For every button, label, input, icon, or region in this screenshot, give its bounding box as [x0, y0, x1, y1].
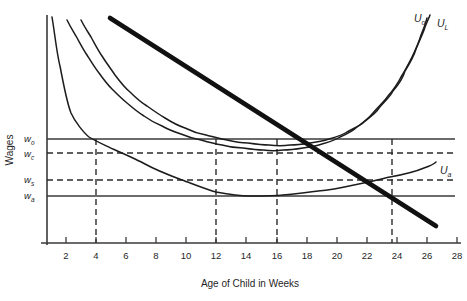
curve-label-u-o-sub: o [422, 19, 426, 26]
wage-label-w-o-sub: o [31, 139, 35, 146]
x-tick-label-12: 26 [422, 250, 433, 261]
wage-label-w-o: wo [24, 133, 35, 146]
x-tick-label-6: 14 [241, 250, 252, 261]
x-tick-label-13: 28 [452, 250, 463, 261]
wage-label-w-c: wc [24, 148, 35, 161]
y-axis-wage-labels: wo wc ws wa [24, 133, 35, 203]
x-tick-label-1: 4 [93, 250, 98, 261]
y-axis-title: Wages [4, 135, 15, 166]
x-axis-title: Age of Child in Weeks [201, 278, 299, 289]
curve-label-u-l: UL [437, 17, 449, 31]
budget-constraint-line [110, 18, 436, 226]
axes-group [41, 15, 461, 245]
x-tick-label-0: 2 [63, 250, 68, 261]
curve-label-u-l-sub: L [445, 24, 449, 31]
drop-lines [96, 139, 392, 243]
wage-label-w-a: wa [24, 190, 35, 203]
curve-label-u-a: Ua [440, 164, 452, 178]
wage-level-lines [47, 139, 455, 196]
x-tick-label-5: 12 [211, 250, 222, 261]
x-tick-label-7: 16 [272, 250, 283, 261]
wage-label-w-c-sub: c [31, 154, 35, 161]
x-axis-ticks [66, 237, 457, 243]
curve-label-u-a-sub: a [448, 171, 452, 178]
wage-label-w-a-sub: a [31, 196, 35, 203]
curve-u-o [67, 18, 427, 151]
x-tick-label-8: 18 [302, 250, 313, 261]
x-tick-label-9: 20 [332, 250, 343, 261]
indifference-curve-chart: 2 4 6 8 10 12 14 16 18 20 22 24 26 28 wo… [0, 0, 467, 301]
x-tick-label-4: 10 [181, 250, 192, 261]
x-tick-label-11: 24 [392, 250, 403, 261]
chart-canvas: 2 4 6 8 10 12 14 16 18 20 22 24 26 28 wo… [0, 0, 467, 301]
wage-label-w-s-sub: s [31, 180, 35, 187]
x-tick-label-3: 8 [153, 250, 158, 261]
wage-label-w-s: ws [24, 174, 35, 187]
x-axis-tick-labels: 2 4 6 8 10 12 14 16 18 20 22 24 26 28 [63, 250, 462, 261]
curve-label-u-o: Uo [414, 12, 426, 26]
x-tick-label-2: 6 [123, 250, 128, 261]
x-tick-label-10: 22 [362, 250, 373, 261]
